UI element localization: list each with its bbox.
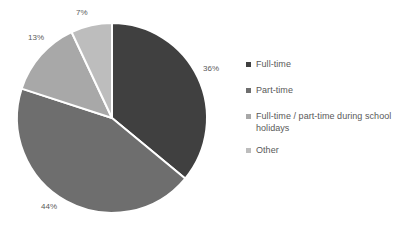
legend-swatch-icon	[246, 148, 251, 153]
legend-item-other: Other	[246, 144, 398, 156]
legend-item-full-time: Full-time	[246, 58, 398, 70]
pie-slice-group	[17, 23, 207, 213]
legend-item-label: Other	[256, 144, 279, 156]
pie-plot-area: 36% 44% 13% 7%	[0, 0, 240, 227]
slice-value-label-holidays: 13%	[28, 33, 44, 42]
slice-value-label-other: 7%	[76, 8, 88, 17]
slice-value-label-part-time: 44%	[41, 202, 57, 211]
legend-swatch-icon	[246, 88, 251, 93]
legend-swatch-icon	[246, 114, 251, 119]
chart-legend: Full-time Part-time Full-time / part-tim…	[246, 58, 398, 166]
legend-item-label: Full-time / part-time during school holi…	[256, 110, 398, 134]
pie-chart-figure: 36% 44% 13% 7% Full-time Part-time Full-…	[0, 0, 400, 227]
legend-swatch-icon	[246, 62, 251, 67]
legend-item-label: Part-time	[256, 84, 293, 96]
slice-value-label-full-time: 36%	[203, 64, 219, 73]
legend-item-label: Full-time	[256, 58, 291, 70]
legend-item-part-time: Part-time	[246, 84, 398, 96]
legend-item-holidays: Full-time / part-time during school holi…	[246, 110, 398, 134]
